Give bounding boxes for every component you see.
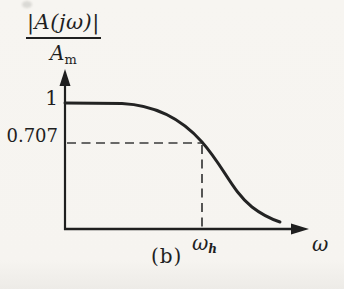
y-tick-label-1: 1: [30, 88, 58, 108]
figure-frequency-response: |A(jω)| Am 1 0.707 ωh ω (b): [0, 0, 344, 289]
x-tick-label-omega-h: ωh: [192, 233, 217, 255]
omega-h-base: ω: [192, 231, 208, 255]
figure-caption: (b): [151, 244, 182, 268]
y-tick-label-0707: 0.707: [6, 127, 58, 145]
x-axis-label: ω: [312, 234, 328, 254]
frequency-response-curve: [65, 103, 280, 222]
omega-h-subscript: h: [208, 242, 217, 256]
y-axis-arrow-icon: [60, 69, 71, 86]
x-axis-arrow-icon: [291, 224, 309, 235]
